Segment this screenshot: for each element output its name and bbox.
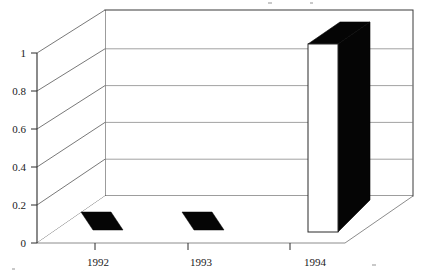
x-axis [95,243,290,250]
noise-speck-4 [372,264,376,266]
bar-1994[interactable] [308,22,370,232]
y-tick-label-0.4: 0.4 [12,161,26,173]
bar-1994-side-face[interactable] [338,22,370,232]
x-tick-label-1992: 1992 [87,256,109,268]
bar-1994-front-face[interactable] [308,44,338,232]
y-axis-labels: 1 0.8 0.6 0.4 0.2 0 [12,47,26,249]
noise-speck-2 [310,2,313,4]
y-tick-label-0.6: 0.6 [12,123,26,135]
y-tick-label-1: 1 [21,47,27,59]
x-axis-labels: 1992 1993 1994 [87,256,327,268]
y-tick-label-0.8: 0.8 [12,85,26,97]
bar-chart-3d: 1 0.8 0.6 0.4 0.2 0 1992 1993 1994 [0,0,424,277]
y-axis [31,53,37,243]
y-tick-label-0: 0 [21,237,27,249]
y-tick-label-0.2: 0.2 [12,199,26,211]
x-tick-label-1994: 1994 [304,256,327,268]
chart-container: 1 0.8 0.6 0.4 0.2 0 1992 1993 1994 [0,0,424,277]
x-tick-label-1993: 1993 [190,256,213,268]
noise-speck-3 [12,268,15,270]
noise-speck-1 [268,2,272,4]
